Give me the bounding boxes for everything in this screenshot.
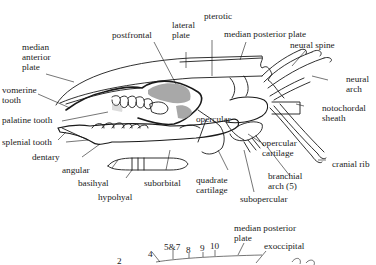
- label-cranial-rib: cranial rib: [332, 159, 370, 169]
- label-hypohyal: hypohyal: [98, 192, 132, 202]
- label-lateral-plate: lateral plate: [172, 20, 195, 40]
- label-number-10: 10: [210, 241, 219, 251]
- label-line: arch: [346, 84, 369, 94]
- label-line: anterior: [22, 52, 51, 62]
- label-line: notochordal: [322, 103, 366, 113]
- label-line: neural: [346, 74, 369, 84]
- label-median-anterior-plate: median anterior plate: [22, 42, 51, 72]
- label-line: plate: [172, 30, 195, 40]
- label-notochordal-sheath: notochordal sheath: [322, 103, 366, 123]
- label-line: plate: [22, 62, 51, 72]
- label-median-posterior-plate: median posterior plate: [224, 29, 306, 39]
- label-number-9: 9: [200, 243, 205, 253]
- label-line: median posterior: [234, 223, 296, 233]
- label-number-4: 4: [148, 249, 153, 259]
- label-pterotic: pterotic: [204, 11, 232, 21]
- label-line: sheath: [322, 113, 366, 123]
- label-number-2: 2: [117, 256, 122, 265]
- label-neural-arch: neural arch: [346, 74, 369, 94]
- label-line: arch (5): [268, 181, 302, 191]
- label-line: median: [22, 42, 51, 52]
- label-angular: angular: [62, 165, 90, 175]
- label-postfrontal: postfrontal: [112, 30, 152, 40]
- label-opercular-cartilage: opercular cartilage: [262, 138, 297, 158]
- label-quadrate-cartilage: quadrate cartilage: [196, 175, 228, 195]
- label-exoccipital: exoccipital: [264, 241, 304, 251]
- label-line: cartilage: [196, 185, 228, 195]
- label-line: lateral: [172, 20, 195, 30]
- label-vomerine-tooth: vomerine tooth: [2, 85, 37, 105]
- skull-diagram-figure: median anterior plate vomerine tooth pal…: [0, 0, 376, 265]
- label-suborbital: suborbital: [144, 178, 181, 188]
- label-line: cartilage: [262, 148, 297, 158]
- label-basihyal: basihyal: [78, 178, 109, 188]
- label-line: quadrate: [196, 175, 228, 185]
- label-line: tooth: [2, 95, 37, 105]
- label-line: vomerine: [2, 85, 37, 95]
- label-number-5-and-7: 5&7: [164, 242, 180, 252]
- label-branchial-arch: branchial arch (5): [268, 171, 302, 191]
- shaded-bone-region: [148, 83, 191, 103]
- label-subopercular: subopercular: [240, 194, 287, 204]
- label-neural-spine: neural spine: [290, 40, 335, 50]
- label-median-posterior-plate-lower: median posterior plate: [234, 223, 296, 243]
- label-line: opercular: [262, 138, 297, 148]
- label-splenial-tooth: splenial tooth: [2, 137, 52, 147]
- label-opercular: opercular: [196, 114, 231, 124]
- label-palatine-tooth: palatine tooth: [2, 115, 52, 125]
- label-number-8: 8: [186, 245, 191, 255]
- label-line: branchial: [268, 171, 302, 181]
- label-dentary: dentary: [32, 152, 60, 162]
